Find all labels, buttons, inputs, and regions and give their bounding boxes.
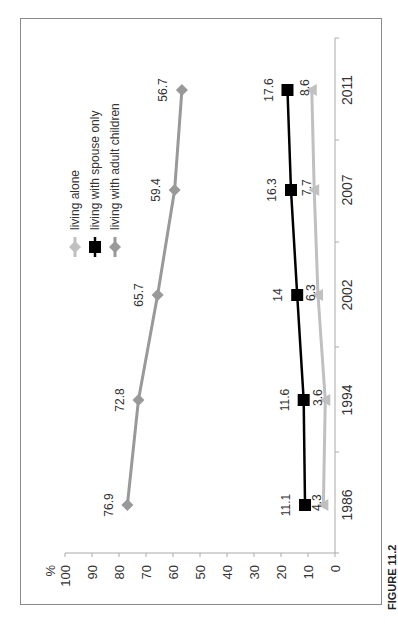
data-point-living-with-adult-children (132, 394, 144, 406)
data-label: 3.6 (311, 389, 325, 406)
value-axis-label: 0 (328, 565, 343, 572)
data-label: 11.1 (279, 493, 293, 516)
data-label: 65.7 (132, 283, 146, 307)
value-axis-label: 50 (193, 565, 208, 579)
data-point-living-with-adult-children (169, 184, 181, 196)
data-point-living-with-spouse-only (281, 84, 293, 96)
value-axis-label: 60 (166, 565, 181, 579)
data-point-living-with-spouse-only (291, 289, 303, 301)
data-point-living-with-adult-children (176, 84, 188, 96)
legend-marker-living-with-adult-children (109, 241, 121, 253)
data-label: 76.9 (102, 493, 116, 517)
data-label: 72.8 (113, 388, 127, 412)
data-point-living-with-adult-children (152, 289, 164, 301)
data-label: 11.6 (278, 388, 292, 411)
data-point-living-with-spouse-only (298, 394, 310, 406)
data-point-living-with-spouse-only (299, 499, 311, 511)
category-axis-label: 1986 (339, 489, 355, 520)
value-axis-label: 10 (301, 565, 316, 579)
data-label: 59.4 (149, 178, 163, 202)
value-axis-unit: % (43, 565, 58, 577)
category-axis-label: 2007 (339, 174, 355, 205)
data-label: 6.3 (304, 284, 318, 301)
legend-marker-living-alone (69, 241, 81, 253)
value-axis-label: 90 (85, 565, 100, 579)
data-point-living-with-adult-children (121, 499, 133, 511)
category-axis-label: 2002 (339, 279, 355, 310)
data-point-living-with-spouse-only (285, 184, 297, 196)
value-axis-label: 20 (274, 565, 289, 579)
legend-label: living with adult children (108, 103, 122, 230)
value-axis-label: 40 (220, 565, 235, 579)
figure-caption: FIGURE 11.2 (386, 545, 398, 610)
data-label: 4.3 (310, 494, 324, 511)
data-label: 56.7 (156, 78, 170, 102)
data-label: 17.6 (262, 78, 276, 102)
data-label: 14 (271, 288, 285, 302)
data-label: 7.7 (300, 179, 314, 196)
data-label: 16.3 (265, 178, 279, 202)
value-axis-label: 70 (139, 565, 154, 579)
category-axis-label: 1994 (339, 384, 355, 415)
value-axis-label: 100 (58, 565, 73, 587)
data-label: 8.6 (298, 79, 312, 96)
value-axis-label: 80 (112, 565, 127, 579)
value-axis-label: 30 (247, 565, 262, 579)
category-axis-label: 2011 (339, 75, 355, 105)
legend-label: living with spouse only (88, 111, 102, 230)
legend-marker-living-with-spouse-only (89, 241, 101, 253)
legend-label: living alone (68, 170, 82, 230)
